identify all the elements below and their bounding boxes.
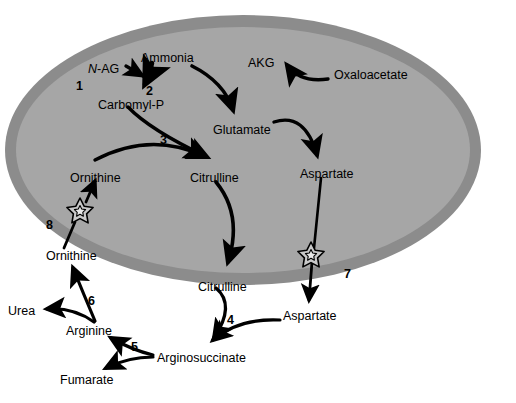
arrow-arginosuccinate-to-fumarate (106, 357, 153, 368)
label-arginine: Arginine (66, 325, 112, 338)
urea-cycle-diagram: N-AG Ammonia Carbomyl-P AKG Oxaloacetate… (0, 0, 516, 403)
label-ornithine-matrix: Ornithine (70, 172, 121, 185)
label-glutamate: Glutamate (213, 124, 271, 137)
arrow-arginine-to-urea (47, 309, 94, 322)
label-oxaloacetate: Oxaloacetate (334, 69, 408, 82)
label-aspartate-matrix: Aspartate (300, 168, 354, 181)
label-citrulline-cytosol: Citrulline (198, 281, 247, 294)
reaction-number-7: 7 (344, 268, 351, 281)
reaction-number-1: 1 (76, 80, 83, 93)
label-fumarate: Fumarate (60, 374, 114, 387)
reaction-number-2: 2 (146, 85, 153, 98)
label-urea: Urea (8, 305, 35, 318)
label-aspartate-cytosol: Aspartate (283, 310, 337, 323)
reaction-number-5: 5 (131, 341, 138, 354)
label-carbomyl-p: Carbomyl-P (98, 99, 164, 112)
label-akg: AKG (248, 57, 274, 70)
reaction-number-4: 4 (227, 314, 234, 327)
reaction-number-6: 6 (88, 295, 95, 308)
label-ammonia: Ammonia (141, 52, 194, 65)
label-ornithine-cytosol: Ornithine (46, 250, 97, 263)
reaction-number-8: 8 (46, 219, 53, 232)
reaction-number-3: 3 (160, 134, 167, 147)
label-citrulline-matrix: Citrulline (190, 172, 239, 185)
label-arginosuccinate: Arginosuccinate (157, 352, 246, 365)
mitochondrial-matrix (16, 27, 470, 273)
label-n-ag: N-AG (88, 63, 119, 76)
